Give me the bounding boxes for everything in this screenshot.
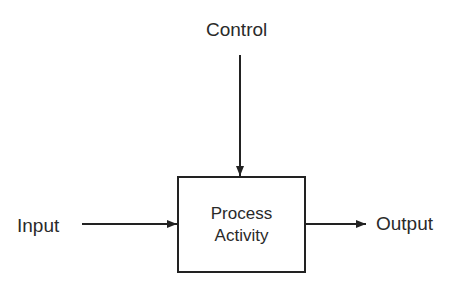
- input-label: Input: [17, 216, 59, 235]
- process-line2: Activity: [215, 225, 269, 247]
- output-label: Output: [376, 214, 433, 233]
- process-line1: Process: [211, 203, 272, 225]
- control-label: Control: [206, 20, 267, 39]
- process-activity-label: Process Activity: [178, 177, 305, 272]
